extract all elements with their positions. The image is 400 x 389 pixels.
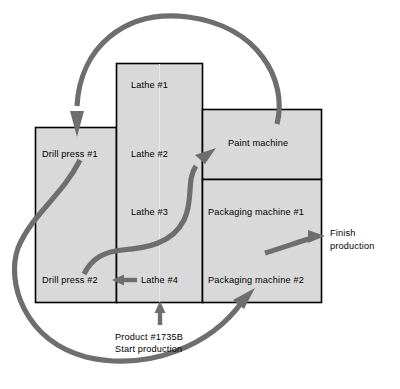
label-lathe-2: Lathe #2 bbox=[131, 149, 168, 159]
label-lathe-4: Lathe #4 bbox=[141, 275, 178, 285]
label-packaging-machine-1: Packaging machine #1 bbox=[208, 207, 304, 217]
factory-flow-diagram: Drill press #1 Drill press #2 Lathe #1 L… bbox=[0, 0, 400, 389]
flow-start-to-lathe4 bbox=[155, 301, 166, 325]
annotation-finish-production-line2: production bbox=[330, 241, 374, 251]
label-drill-press-2: Drill press #2 bbox=[42, 275, 98, 285]
label-lathe-3: Lathe #3 bbox=[131, 207, 168, 217]
annotation-finish-production-line1: Finish bbox=[330, 228, 355, 238]
label-packaging-machine-2: Packaging machine #2 bbox=[208, 275, 304, 285]
diagram-canvas: Drill press #1 Drill press #2 Lathe #1 L… bbox=[0, 0, 400, 389]
label-lathe-1: Lathe #1 bbox=[131, 80, 168, 90]
label-drill-press-1: Drill press #1 bbox=[42, 149, 98, 159]
annotation-start-production-line2: Start production bbox=[115, 344, 182, 354]
label-paint-machine: Paint machine bbox=[228, 138, 288, 148]
annotation-start-production-line1: Product #1735B bbox=[115, 332, 183, 342]
